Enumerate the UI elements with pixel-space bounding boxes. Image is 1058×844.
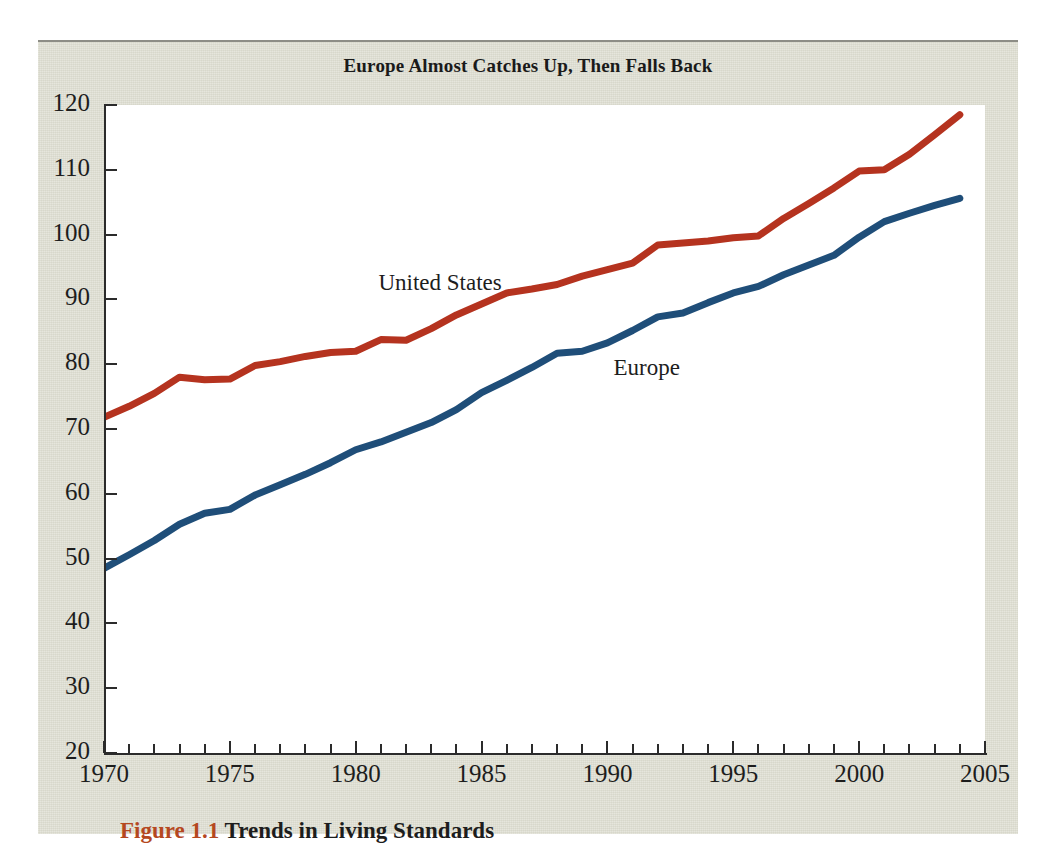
x-tick-minor bbox=[707, 744, 709, 753]
x-tick-label: 2005 bbox=[960, 760, 1010, 788]
y-tick bbox=[106, 104, 117, 106]
x-tick-minor bbox=[883, 744, 885, 753]
x-tick-major bbox=[355, 741, 357, 753]
x-tick-minor bbox=[254, 744, 256, 753]
x-tick-minor bbox=[405, 744, 407, 753]
x-tick-minor bbox=[430, 744, 432, 753]
x-tick-label: 1995 bbox=[708, 760, 758, 788]
y-tick-label: 80 bbox=[28, 348, 90, 376]
y-tick-label: 30 bbox=[28, 672, 90, 700]
x-tick-minor bbox=[757, 744, 759, 753]
y-tick-label: 100 bbox=[28, 219, 90, 247]
series-label-united-states: United States bbox=[378, 270, 501, 296]
y-tick bbox=[106, 493, 117, 495]
x-tick-minor bbox=[330, 744, 332, 753]
x-tick-minor bbox=[908, 744, 910, 753]
y-tick-label: 50 bbox=[28, 543, 90, 571]
x-tick-minor bbox=[581, 744, 583, 753]
y-tick bbox=[106, 622, 117, 624]
y-tick bbox=[106, 428, 117, 430]
x-tick-label: 2000 bbox=[834, 760, 884, 788]
y-axis-labels: 2030405060708090100110120 bbox=[28, 0, 90, 834]
y-tick bbox=[106, 298, 117, 300]
x-tick-minor bbox=[682, 744, 684, 753]
x-axis-line bbox=[104, 753, 987, 755]
y-tick bbox=[106, 752, 117, 754]
y-tick-label: 60 bbox=[28, 478, 90, 506]
y-tick bbox=[106, 558, 117, 560]
y-tick-label: 70 bbox=[28, 413, 90, 441]
y-tick bbox=[106, 234, 117, 236]
x-tick-major bbox=[103, 741, 105, 753]
x-tick-minor bbox=[179, 744, 181, 753]
x-tick-minor bbox=[783, 744, 785, 753]
x-tick-minor bbox=[279, 744, 281, 753]
x-tick-label: 1975 bbox=[205, 760, 255, 788]
x-tick-minor bbox=[556, 744, 558, 753]
x-tick-minor bbox=[934, 744, 936, 753]
chart-title: Europe Almost Catches Up, Then Falls Bac… bbox=[38, 55, 1018, 77]
x-tick-major bbox=[858, 741, 860, 753]
x-tick-minor bbox=[204, 744, 206, 753]
series-line-united-states bbox=[104, 115, 960, 418]
y-tick bbox=[106, 363, 117, 365]
x-tick-minor bbox=[153, 744, 155, 753]
series-paths bbox=[104, 115, 960, 569]
x-tick-minor bbox=[657, 744, 659, 753]
y-tick bbox=[106, 687, 117, 689]
x-tick-major bbox=[229, 741, 231, 753]
figure-caption-text: Trends in Living Standards bbox=[225, 818, 495, 843]
y-tick-label: 110 bbox=[28, 154, 90, 182]
figure-caption: Figure 1.1 Trends in Living Standards bbox=[120, 818, 980, 844]
plot-area bbox=[104, 105, 985, 753]
y-tick-label: 120 bbox=[28, 89, 90, 117]
plot-svg bbox=[104, 105, 985, 753]
x-tick-minor bbox=[506, 744, 508, 753]
x-tick-minor bbox=[304, 744, 306, 753]
x-tick-label: 1985 bbox=[457, 760, 507, 788]
series-label-europe: Europe bbox=[613, 355, 679, 381]
x-tick-major bbox=[732, 741, 734, 753]
x-tick-minor bbox=[531, 744, 533, 753]
x-tick-minor bbox=[632, 744, 634, 753]
x-tick-label: 1990 bbox=[582, 760, 632, 788]
x-tick-label: 1980 bbox=[331, 760, 381, 788]
x-tick-major bbox=[481, 741, 483, 753]
y-tick-label: 90 bbox=[28, 283, 90, 311]
x-tick-minor bbox=[128, 744, 130, 753]
x-axis-labels: 19701975198019851990199520002005 bbox=[0, 760, 1058, 800]
y-tick-label: 40 bbox=[28, 607, 90, 635]
y-tick bbox=[106, 169, 117, 171]
x-tick-minor bbox=[959, 744, 961, 753]
series-line-europe bbox=[104, 198, 960, 568]
x-tick-minor bbox=[808, 744, 810, 753]
x-tick-minor bbox=[455, 744, 457, 753]
figure-number: Figure 1.1 bbox=[120, 818, 219, 843]
x-tick-label: 1970 bbox=[79, 760, 129, 788]
x-tick-minor bbox=[833, 744, 835, 753]
x-tick-minor bbox=[380, 744, 382, 753]
x-tick-major bbox=[984, 741, 986, 753]
x-tick-major bbox=[606, 741, 608, 753]
